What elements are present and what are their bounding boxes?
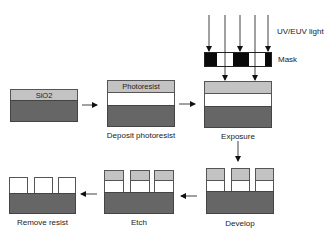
arrows-layer bbox=[0, 0, 330, 237]
